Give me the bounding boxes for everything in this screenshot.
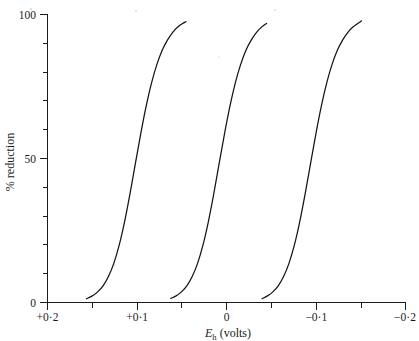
y-tick-label-0: 0 bbox=[30, 297, 36, 309]
y-tick-label-100: 100 bbox=[19, 9, 37, 21]
chart-figure: 100 50 0 +0·2 +0·1 0 −0·1 −0·2 Eh (volts… bbox=[0, 0, 419, 341]
x-tick-label-minus-0-1: −0·1 bbox=[305, 311, 327, 323]
x-tick-label-plus-0-1: +0·1 bbox=[126, 311, 148, 323]
x-axis-title: Eh (volts) bbox=[204, 326, 251, 341]
x-tick-label-minus-0-2: −0·2 bbox=[394, 311, 416, 323]
x-tick-label-plus-0-2: +0·2 bbox=[37, 311, 59, 323]
redox-titration-plot: 100 50 0 +0·2 +0·1 0 −0·1 −0·2 Eh (volts… bbox=[0, 0, 419, 341]
x-tick-label-zero: 0 bbox=[224, 311, 230, 323]
plot-background bbox=[0, 0, 419, 341]
y-axis-title: % reduction bbox=[3, 133, 17, 191]
y-tick-label-50: 50 bbox=[25, 153, 37, 165]
x-axis-title-units: (volts) bbox=[220, 326, 251, 340]
